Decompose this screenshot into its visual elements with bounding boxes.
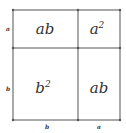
bottom-label-b: b xyxy=(45,123,49,130)
cell-top-left: ab xyxy=(36,20,55,38)
cell-bottom-right: ab xyxy=(90,79,109,97)
square-diagram: ab a2 b2 ab a b b a xyxy=(0,0,126,133)
cell-bottom-left: b2 xyxy=(35,79,51,97)
cell-top-right: a2 xyxy=(90,20,105,38)
left-label-a: a xyxy=(6,25,10,32)
bottom-label-a: a xyxy=(97,123,101,130)
left-label-b: b xyxy=(6,85,10,92)
vertex-dots xyxy=(12,9,121,121)
